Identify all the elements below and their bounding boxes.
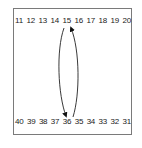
arrows-layer — [0, 0, 142, 148]
arrow-up-icon — [71, 28, 78, 117]
arrow-down-icon — [59, 28, 66, 116]
